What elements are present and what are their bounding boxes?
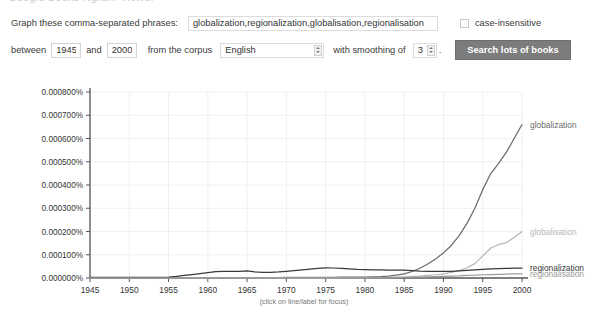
ngram-viewer-page: Google Books Ngram Viewer Graph these co… — [0, 0, 608, 325]
x-tick-label: 1985 — [395, 285, 414, 295]
x-tick-label: 1965 — [238, 285, 257, 295]
ngram-chart-svg[interactable]: 0.000000%0.000100%0.000200%0.000300%0.00… — [0, 80, 608, 295]
search-button[interactable]: Search lots of books — [455, 40, 570, 60]
phrases-input[interactable] — [188, 16, 438, 31]
form-row-phrases: Graph these comma-separated phrases: cas… — [0, 12, 608, 34]
between-label: between — [11, 45, 46, 55]
smoothing-value: 3 — [414, 45, 423, 55]
x-tick-label: 2000 — [513, 285, 532, 295]
case-insensitive-label: case-insensitive — [475, 18, 541, 28]
y-tick-label: 0.000400% — [42, 181, 83, 190]
series-label-globalisation[interactable]: globalisation — [530, 227, 577, 237]
corpus-select[interactable]: English — [220, 43, 324, 58]
x-tick-label: 1995 — [473, 285, 492, 295]
query-form: Graph these comma-separated phrases: cas… — [0, 12, 608, 61]
x-tick-label: 1960 — [198, 285, 217, 295]
x-tick-label: 1950 — [120, 285, 139, 295]
trailing-period: . — [439, 45, 442, 55]
x-tick-label: 1980 — [356, 285, 375, 295]
series-label-regionalisation[interactable]: regionalisation — [530, 269, 584, 279]
x-tick-label: 1990 — [434, 285, 453, 295]
clipped-header-strip: Google Books Ngram Viewer — [0, 0, 608, 9]
case-insensitive-checkbox[interactable] — [460, 19, 469, 28]
form-row-options: between and from the corpus English with… — [0, 39, 608, 61]
smoothing-label: with smoothing of — [333, 45, 405, 55]
y-tick-label: 0.000000% — [42, 274, 83, 283]
y-tick-label: 0.000700% — [42, 111, 83, 120]
x-tick-label: 1970 — [277, 285, 296, 295]
y-tick-label: 0.000800% — [42, 88, 83, 97]
year-end-input[interactable] — [107, 43, 137, 58]
x-tick-label: 1975 — [316, 285, 335, 295]
and-label: and — [86, 45, 102, 55]
clipped-header-text: Google Books Ngram Viewer — [8, 0, 155, 3]
chevron-updown-icon[interactable] — [314, 45, 322, 56]
corpus-label: from the corpus — [148, 45, 213, 55]
x-tick-label: 1945 — [81, 285, 100, 295]
chart-series-labels[interactable]: globalizationglobalisationregionalizatio… — [530, 120, 584, 279]
phrases-label: Graph these comma-separated phrases: — [11, 18, 178, 28]
smoothing-stepper[interactable]: 3 — [413, 43, 437, 58]
y-tick-label: 0.000300% — [42, 204, 83, 213]
x-tick-label: 1955 — [159, 285, 178, 295]
year-start-input[interactable] — [51, 43, 81, 58]
case-insensitive-group[interactable]: case-insensitive — [438, 18, 541, 28]
corpus-select-value: English — [221, 45, 256, 55]
chart-caption: (click on line/label for focus) — [0, 297, 608, 306]
x-axis-tick-labels: 1945195019551960196519701975198019851990… — [81, 285, 532, 295]
y-axis-tick-labels: 0.000000%0.000100%0.000200%0.000300%0.00… — [42, 88, 83, 283]
stepper-updown-icon[interactable] — [427, 45, 435, 56]
series-label-globalization[interactable]: globalization — [530, 120, 577, 130]
y-tick-label: 0.000500% — [42, 158, 83, 167]
y-tick-label: 0.000200% — [42, 228, 83, 237]
series-line-regionalisation[interactable] — [90, 274, 522, 278]
y-tick-label: 0.000100% — [42, 251, 83, 260]
y-tick-label: 0.000600% — [42, 135, 83, 144]
ngram-chart[interactable]: 0.000000%0.000100%0.000200%0.000300%0.00… — [0, 80, 608, 325]
chart-gridlines — [90, 92, 522, 278]
